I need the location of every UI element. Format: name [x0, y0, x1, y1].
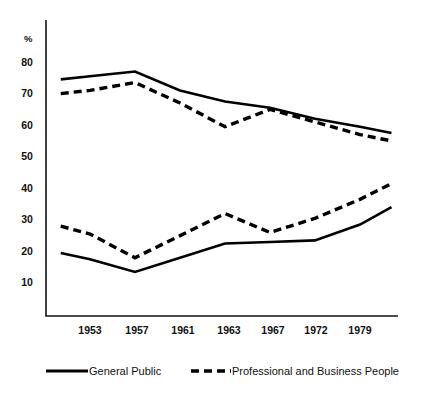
- y-tick-label-50: 50: [21, 150, 33, 162]
- y-tick-label-40: 40: [21, 182, 33, 194]
- legend-label-professional-business: Professional and Business People: [232, 365, 399, 377]
- legend-label-general-public: General Public: [89, 365, 162, 377]
- y-tick-label-60: 60: [21, 119, 33, 131]
- x-tick-label-1972: 1972: [304, 324, 328, 336]
- x-tick-label-1967: 1967: [261, 324, 285, 336]
- x-tick-label-1979: 1979: [348, 324, 372, 336]
- chart-svg: % 80 70 60 50 40 30 20 10 1953 1957 1961…: [0, 0, 423, 397]
- y-tick-label-30: 30: [21, 213, 33, 225]
- y-tick-label-10: 10: [21, 276, 33, 288]
- x-tick-label-1961: 1961: [171, 324, 195, 336]
- y-axis-unit-label: %: [24, 33, 33, 44]
- y-tick-label-80: 80: [21, 56, 33, 68]
- line-chart: % 80 70 60 50 40 30 20 10 1953 1957 1961…: [0, 0, 423, 397]
- x-tick-label-1953: 1953: [78, 324, 102, 336]
- x-tick-label-1963: 1963: [217, 324, 241, 336]
- x-tick-label-1957: 1957: [125, 324, 149, 336]
- y-tick-label-20: 20: [21, 245, 33, 257]
- y-tick-label-70: 70: [21, 87, 33, 99]
